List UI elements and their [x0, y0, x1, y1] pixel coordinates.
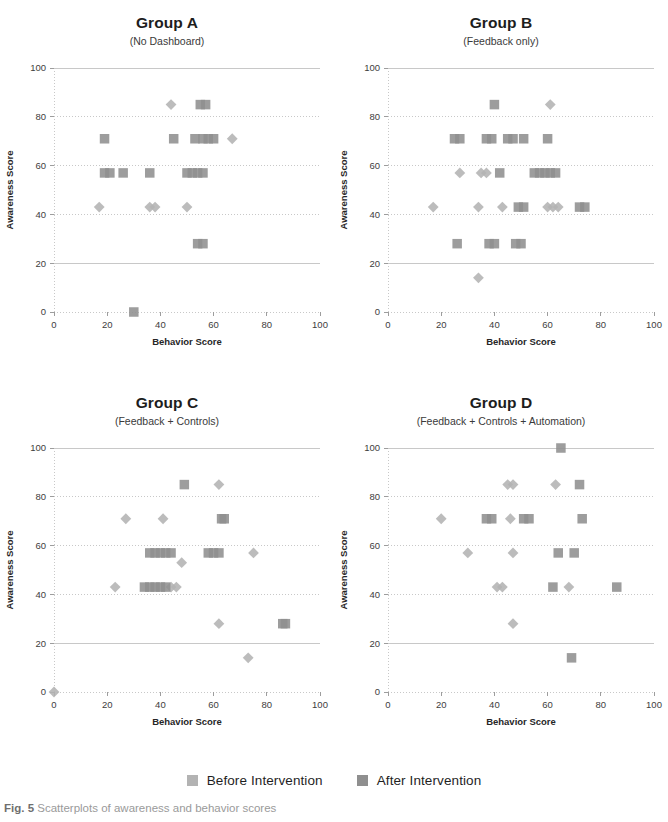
svg-text:100: 100 — [312, 319, 328, 330]
data-point — [180, 480, 190, 490]
data-point — [487, 134, 497, 144]
series-before — [94, 99, 238, 212]
svg-text:Behavior Score: Behavior Score — [486, 716, 556, 727]
data-point — [214, 479, 225, 490]
svg-text:40: 40 — [489, 699, 500, 710]
svg-text:60: 60 — [35, 540, 46, 551]
panel-subtitle-group-b: (Feedback only) — [334, 32, 668, 47]
svg-text:60: 60 — [542, 699, 553, 710]
data-point — [110, 582, 121, 593]
data-point — [577, 514, 587, 524]
svg-text:80: 80 — [369, 491, 380, 502]
svg-text:20: 20 — [35, 638, 46, 649]
panel-title-group-a: Group A — [0, 0, 334, 32]
panel-subtitle-group-d: (Feedback + Controls + Automation) — [334, 412, 668, 427]
svg-text:Awareness Score: Awareness Score — [338, 150, 349, 229]
data-point — [575, 480, 585, 490]
data-point — [543, 134, 553, 144]
data-point — [209, 134, 219, 144]
svg-text:40: 40 — [369, 589, 380, 600]
panel-title-group-c: Group C — [0, 380, 334, 412]
legend-label-after: After Intervention — [377, 773, 482, 788]
data-point — [487, 514, 497, 524]
data-point — [548, 582, 558, 592]
data-point — [176, 557, 187, 568]
data-point — [49, 687, 60, 698]
svg-text:100: 100 — [364, 62, 380, 73]
data-point — [182, 202, 193, 213]
data-point — [118, 168, 128, 178]
legend-swatch-before-icon — [187, 775, 198, 786]
data-point — [567, 653, 577, 663]
data-point — [105, 168, 115, 178]
svg-text:0: 0 — [385, 699, 390, 710]
svg-text:Awareness Score: Awareness Score — [338, 530, 349, 609]
data-point — [495, 168, 505, 178]
data-point — [214, 548, 224, 558]
data-point — [452, 239, 462, 249]
data-point — [455, 134, 465, 144]
svg-text:80: 80 — [369, 111, 380, 122]
data-point — [550, 479, 561, 490]
data-point — [490, 100, 500, 110]
svg-text:0: 0 — [375, 686, 380, 697]
panel-grid: Group A (No Dashboard) 02040608010002040… — [0, 0, 668, 760]
plot-area-group-d: 020406080100020406080100Behavior ScoreAw… — [334, 438, 668, 738]
svg-text:Behavior Score: Behavior Score — [152, 716, 222, 727]
scatter-svg-group-a: 020406080100020406080100Behavior ScoreAw… — [0, 58, 334, 358]
svg-text:80: 80 — [262, 319, 273, 330]
svg-text:100: 100 — [30, 442, 46, 453]
data-point — [551, 168, 561, 178]
data-point — [462, 548, 473, 559]
data-point — [490, 239, 500, 249]
data-point — [145, 168, 155, 178]
legend-item-before: Before Intervention — [187, 773, 323, 788]
data-point — [508, 618, 519, 629]
data-point — [612, 582, 622, 592]
svg-text:80: 80 — [35, 491, 46, 502]
data-point — [169, 134, 179, 144]
data-point — [201, 100, 211, 110]
panel-group-c: Group C (Feedback + Controls) 0204060801… — [0, 380, 334, 760]
panel-subtitle-group-a: (No Dashboard) — [0, 32, 334, 47]
data-point — [248, 548, 259, 559]
scatter-svg-group-c: 020406080100020406080100Behavior ScoreAw… — [0, 438, 334, 738]
data-point — [473, 202, 484, 213]
data-point — [553, 548, 563, 558]
svg-text:40: 40 — [35, 209, 46, 220]
plot-area-group-b: 020406080100020406080100Behavior ScoreAw… — [334, 58, 668, 358]
data-point — [436, 513, 447, 524]
svg-text:0: 0 — [375, 306, 380, 317]
data-point — [545, 99, 556, 110]
data-point — [428, 202, 439, 213]
panel-title-group-b: Group B — [334, 0, 668, 32]
svg-text:40: 40 — [155, 319, 166, 330]
legend-swatch-after-icon — [357, 775, 368, 786]
panel-subtitle-group-c: (Feedback + Controls) — [0, 412, 334, 427]
data-point — [161, 582, 171, 592]
data-point — [214, 618, 225, 629]
svg-text:20: 20 — [369, 258, 380, 269]
panel-group-d: Group D (Feedback + Controls + Automatio… — [334, 380, 668, 760]
data-point — [519, 202, 529, 212]
svg-text:100: 100 — [364, 442, 380, 453]
data-point — [120, 513, 131, 524]
data-point — [158, 513, 169, 524]
caption-text: Scatterplots of awareness and behavior s… — [37, 802, 276, 814]
data-point — [563, 582, 574, 593]
data-point — [569, 548, 579, 558]
series-after — [482, 443, 622, 662]
data-point — [129, 307, 139, 317]
data-point — [166, 99, 177, 110]
data-point — [516, 239, 526, 249]
series-after — [140, 480, 290, 629]
data-point — [227, 133, 238, 144]
svg-text:20: 20 — [102, 699, 113, 710]
data-point — [166, 548, 176, 558]
series-before — [428, 99, 564, 283]
svg-text:100: 100 — [312, 699, 328, 710]
svg-text:Awareness Score: Awareness Score — [4, 530, 15, 609]
data-point — [94, 202, 105, 213]
svg-text:100: 100 — [30, 62, 46, 73]
data-point — [454, 168, 465, 179]
